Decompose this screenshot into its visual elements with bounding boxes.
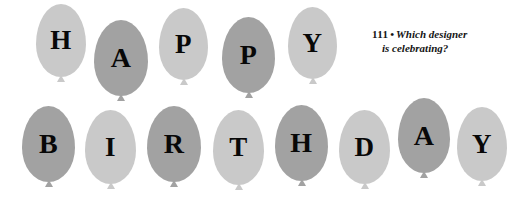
- balloon-letter: Y: [288, 7, 337, 79]
- caption-separator-bullet-icon: •: [388, 28, 396, 40]
- balloon-b-5: B: [22, 106, 75, 182]
- balloon-a-1: A: [94, 20, 148, 96]
- balloon-knot-icon: [57, 75, 65, 82]
- balloon-letter: A: [94, 20, 148, 96]
- balloon-knot-icon: [107, 182, 115, 189]
- balloon-p-2: P: [159, 8, 208, 80]
- balloon-knot-icon: [235, 183, 243, 190]
- balloon-r-7: R: [147, 106, 201, 182]
- balloon-knot-icon: [245, 91, 253, 98]
- balloon-letter: R: [147, 106, 201, 182]
- caption-line-1: Which designer: [396, 28, 467, 40]
- balloon-knot-icon: [420, 171, 428, 178]
- caption-block: 111•Which designer is celebrating?: [372, 27, 517, 55]
- balloon-knot-icon: [361, 182, 369, 189]
- balloon-y-12: Y: [457, 107, 507, 181]
- balloon-a-11: A: [398, 98, 450, 173]
- balloon-letter: A: [398, 98, 450, 173]
- balloon-h-9: H: [275, 105, 328, 181]
- balloon-illustration: HAPPYBIRTHDAY 111•Which designer is cele…: [0, 0, 521, 197]
- balloon-knot-icon: [478, 179, 486, 186]
- balloon-knot-icon: [45, 180, 53, 187]
- balloon-i-6: I: [85, 110, 136, 184]
- balloon-h-0: H: [36, 4, 86, 77]
- balloon-letter: T: [213, 110, 264, 185]
- balloon-knot-icon: [309, 77, 317, 84]
- balloon-knot-icon: [170, 180, 178, 187]
- balloon-t-8: T: [213, 110, 264, 185]
- balloon-letter: B: [22, 106, 75, 182]
- balloon-letter: Y: [457, 107, 507, 181]
- balloon-letter: H: [36, 4, 86, 77]
- caption-line-2: is celebrating?: [372, 41, 517, 55]
- balloon-knot-icon: [117, 94, 125, 101]
- balloon-letter: I: [85, 110, 136, 184]
- balloon-letter: H: [275, 105, 328, 181]
- balloon-d-10: D: [339, 110, 390, 184]
- balloon-letter: P: [222, 17, 275, 93]
- caption-number: 111: [372, 28, 388, 40]
- balloon-letter: D: [339, 110, 390, 184]
- balloon-knot-icon: [180, 78, 188, 85]
- balloon-knot-icon: [298, 179, 306, 186]
- balloon-y-4: Y: [288, 7, 337, 79]
- balloon-letter: P: [159, 8, 208, 80]
- balloon-p-3: P: [222, 17, 275, 93]
